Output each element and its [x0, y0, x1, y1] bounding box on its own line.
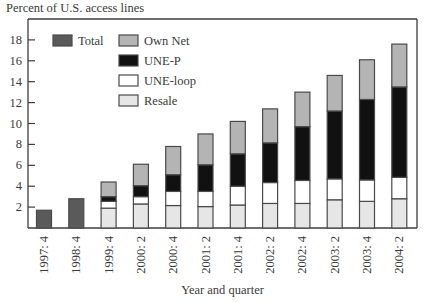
bar-segment-resale: [295, 203, 310, 228]
legend-label: UNE-P: [144, 54, 181, 68]
x-tick-label: 2003: 4: [360, 235, 374, 274]
bars: [37, 44, 407, 228]
bar-segment-own-net: [101, 182, 116, 197]
bar-group: [295, 92, 310, 228]
bar-segment-une-loop: [327, 179, 342, 200]
y-tick-label: 6: [16, 158, 22, 172]
bar-segment-une-p: [360, 99, 375, 179]
x-tick-label: 1997: 4: [37, 235, 51, 274]
bar-segment-resale: [327, 200, 342, 228]
legend-item: Own Net: [119, 34, 190, 48]
bar-segment-une-loop: [263, 183, 278, 204]
legend-label: UNE-loop: [144, 74, 196, 88]
bar-segment-une-p: [392, 87, 407, 177]
x-tick-label: 2001: 2: [199, 236, 213, 274]
x-tick-label: 2001: 4: [231, 235, 245, 274]
y-tick-label: 18: [10, 33, 23, 47]
x-axis: 1997: 41998: 41999: 42000: 22000: 42001:…: [37, 235, 406, 274]
legend-label: Resale: [144, 94, 178, 108]
stacked-bar-chart: 24681012141618 1997: 41998: 41999: 42000…: [0, 0, 429, 302]
legend-label: Total: [78, 34, 104, 48]
bar-segment-une-p: [327, 111, 342, 179]
legend: TotalOwn NetUNE-PUNE-loopResale: [53, 34, 196, 108]
bar-group: [101, 182, 116, 228]
legend-item: UNE-loop: [119, 74, 196, 88]
legend-item: UNE-P: [119, 54, 181, 68]
bar-segment-une-p: [230, 154, 245, 186]
x-tick-label: 2003: 2: [328, 236, 342, 274]
x-tick-label: 2002: 4: [295, 235, 309, 274]
y-tick-label: 4: [16, 179, 23, 193]
bar-segment-resale: [166, 206, 181, 228]
bar-segment-total: [69, 199, 84, 228]
y-tick-label: 16: [10, 54, 23, 68]
bar-segment-une-loop: [360, 180, 375, 201]
bar-segment-une-loop: [392, 177, 407, 198]
bar-segment-resale: [360, 201, 375, 228]
x-axis-title: Year and quarter: [0, 283, 429, 298]
legend-label: Own Net: [144, 34, 190, 48]
bar-segment-resale: [133, 204, 148, 228]
bar-group: [69, 199, 84, 228]
y-tick-label: 14: [10, 75, 23, 89]
legend-item: Total: [53, 34, 104, 48]
bar-segment-une-p: [198, 165, 213, 192]
bar-segment-own-net: [166, 146, 181, 174]
bar-segment-own-net: [263, 109, 278, 143]
bar-segment-own-net: [360, 60, 375, 100]
bar-group: [198, 134, 213, 228]
bar-segment-une-loop: [166, 191, 181, 205]
legend-swatch: [53, 35, 72, 46]
bar-group: [133, 164, 148, 228]
bar-segment-resale: [198, 207, 213, 228]
legend-item: Resale: [119, 94, 178, 108]
x-tick-label: 2000: 4: [166, 235, 180, 274]
legend-swatch: [119, 75, 138, 86]
legend-swatch: [119, 95, 138, 106]
bar-group: [360, 60, 375, 228]
x-tick-label: 1999: 4: [102, 235, 116, 274]
y-tick-label: 12: [10, 96, 23, 110]
bar-segment-own-net: [327, 75, 342, 111]
y-axis: 24681012141618: [10, 33, 36, 214]
bar-segment-resale: [392, 199, 407, 228]
bar-segment-own-net: [198, 134, 213, 165]
x-tick-label: 2000: 2: [134, 236, 148, 274]
plot-frame: [28, 19, 417, 228]
bar-group: [263, 109, 278, 228]
bar-segment-une-loop: [230, 186, 245, 205]
bar-segment-resale: [263, 203, 278, 228]
bar-segment-own-net: [230, 121, 245, 153]
bar-group: [37, 210, 52, 228]
bar-segment-resale: [230, 205, 245, 228]
bar-segment-une-p: [133, 186, 148, 197]
bar-segment-une-loop: [198, 191, 213, 206]
bar-group: [166, 146, 181, 228]
x-tick-label: 1998: 4: [69, 235, 83, 274]
y-tick-label: 2: [16, 200, 22, 214]
bar-segment-own-net: [295, 92, 310, 126]
bar-segment-une-loop: [133, 197, 148, 204]
y-tick-label: 10: [10, 117, 23, 131]
bar-segment-une-p: [263, 143, 278, 183]
x-tick-label: 2002: 2: [263, 236, 277, 274]
bar-group: [327, 75, 342, 228]
bar-group: [230, 121, 245, 228]
bar-segment-une-loop: [101, 201, 116, 208]
x-tick-label: 2004: 2: [392, 236, 406, 274]
bar-segment-own-net: [133, 164, 148, 185]
bar-group: [392, 44, 407, 228]
bar-segment-une-loop: [295, 180, 310, 203]
bar-segment-resale: [101, 208, 116, 228]
y-tick-label: 8: [16, 137, 22, 151]
legend-swatch: [119, 35, 138, 46]
bar-segment-une-p: [295, 127, 310, 181]
bar-segment-une-p: [101, 197, 116, 202]
legend-swatch: [119, 55, 138, 66]
bar-segment-own-net: [392, 44, 407, 87]
bar-segment-total: [37, 210, 52, 228]
bar-segment-une-p: [166, 175, 181, 192]
